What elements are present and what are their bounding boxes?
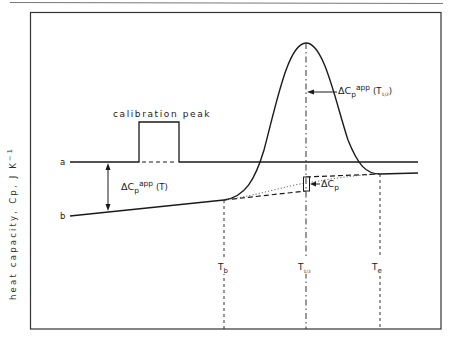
y-axis-label: heat capacity, Cp, J K−1 <box>6 147 18 300</box>
line-b-label: b <box>60 211 65 221</box>
line-b-baseline <box>70 200 224 216</box>
delta-cp-app-thalf-label: ΔCpapp(T1/2) <box>338 83 392 99</box>
delta-cp-label: ΔCp <box>321 178 339 192</box>
delta-cp-app-t-arrow <box>106 163 111 211</box>
top-rule <box>10 3 443 4</box>
line-a-label: a <box>60 157 65 167</box>
line-a-with-calibration-peak <box>70 122 418 162</box>
dsc-thermogram-diagram: heat capacity, Cp, J K−1 calibration pea… <box>0 0 450 342</box>
calibration-peak-label: calibration peak <box>113 109 211 119</box>
delta-cp-app-t-label: ΔCpapp(T) <box>121 179 168 195</box>
plot-frame <box>31 13 442 330</box>
delta-cp-arrow <box>310 182 320 187</box>
svg-text:heat capacity, Cp, J K−1: heat capacity, Cp, J K−1 <box>6 147 18 300</box>
transition-peak-curve <box>224 43 418 200</box>
